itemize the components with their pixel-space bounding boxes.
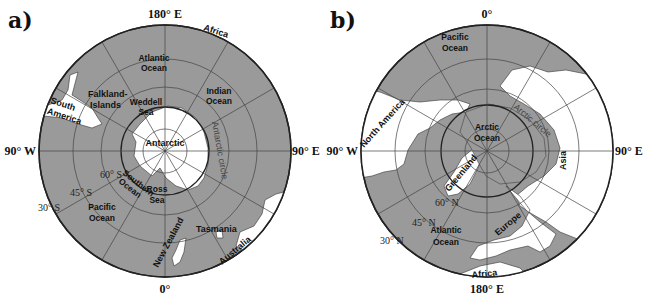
panel-b-axis-bottom: 180° E [470, 282, 504, 296]
panel-a-lat-label-60: 60° S [100, 169, 122, 180]
panel-b-axis-top: 0° [482, 7, 493, 21]
polar-maps-figure: a) 180° E 0° 90° W 90° E [0, 0, 647, 299]
panel-a-axis-left: 90° W [4, 144, 36, 158]
panel-b-lat-label-30: 30° N [380, 235, 404, 246]
panel-a-lat-label-45: 45° S [70, 187, 92, 198]
panel-a-land-label-tasmania: Tasmania [196, 224, 238, 234]
panel-a: a) 180° E 0° 90° W 90° E [4, 7, 319, 296]
panel-a-label: a) [8, 7, 33, 33]
panel-a-ocean-atlantic: AtlanticOcean [138, 53, 169, 73]
panel-b-land-label-asia: Asia [558, 150, 568, 170]
panel-b: b) 0° [326, 7, 642, 296]
panel-a-axis-bottom: 0° [160, 282, 171, 296]
panel-a-ocean-pacific: PacificOcean [88, 202, 116, 223]
panel-a-axis-top: 180° E [148, 7, 182, 21]
panel-a-ocean-ross: RossSea [147, 184, 168, 205]
panel-b-ocean-arctic: ArcticOcean [474, 122, 500, 143]
panel-a-lat-label-30: 30° S [38, 202, 60, 213]
panel-b-land-label-africa: Africa [471, 267, 498, 280]
panel-a-ocean-indian: IndianOcean [206, 86, 232, 106]
panel-b-axis-left: 90° W [326, 144, 358, 158]
panel-b-axis-right: 90° E [615, 144, 643, 158]
panel-a-land-label-antarctic: Antarctic [145, 138, 184, 148]
panel-b-ocean-pacific: PacificOcean [441, 32, 469, 53]
panel-a-axis-right: 90° E [292, 144, 320, 158]
panel-b-lat-label-60: 60° N [435, 197, 459, 208]
panel-b-label: b) [330, 7, 356, 33]
